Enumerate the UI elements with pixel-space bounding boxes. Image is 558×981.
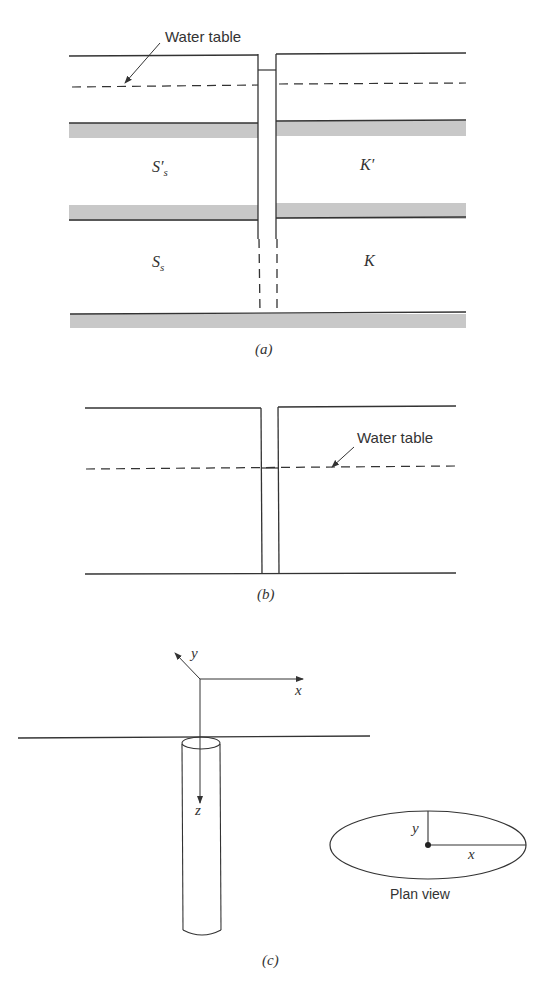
well-cylinder-top <box>182 737 220 749</box>
figure-canvas <box>0 0 558 981</box>
water-table-label-a: Water table <box>165 28 241 45</box>
axis-z-label: z <box>195 802 201 819</box>
confining-layer-1 <box>69 123 258 138</box>
caption-a: (a) <box>255 341 273 358</box>
water-table-label-b: Water table <box>357 429 433 446</box>
plan-x-label: x <box>468 846 475 863</box>
plan-view-label: Plan view <box>390 886 450 902</box>
well-point-icon <box>425 842 431 848</box>
conductivity-upper: K′ <box>360 156 374 174</box>
confining-layer-2 <box>69 205 258 221</box>
plan-y-label: y <box>412 820 419 837</box>
axis-x-label: x <box>295 682 302 699</box>
base-layer <box>70 314 466 328</box>
caption-c: (c) <box>262 952 279 969</box>
specific-storage-lower: Ss <box>152 253 164 273</box>
caption-b: (b) <box>257 586 275 603</box>
conductivity-lower: K <box>364 252 375 270</box>
well-screen <box>259 239 260 313</box>
water-table-line <box>72 85 258 87</box>
axis-y-label: y <box>191 645 198 662</box>
specific-storage-upper: S′s <box>152 158 168 178</box>
panel-a <box>69 43 466 328</box>
